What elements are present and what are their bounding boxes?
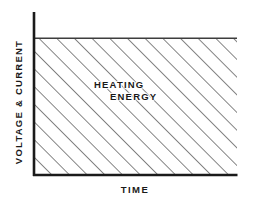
heating-energy-line-2: ENERGY	[83, 91, 175, 103]
x-axis-label: TIME	[33, 184, 237, 195]
chart-plot-area	[0, 0, 258, 204]
heating-energy-annotation: HEATING ENERGY	[83, 79, 175, 102]
heating-energy-chart: VOLTAGE & CURRENT HEATING ENERGY TIME	[0, 0, 258, 204]
heating-energy-line-1: HEATING	[83, 79, 175, 91]
x-axis-label-text: TIME	[121, 184, 149, 195]
heating-energy-area	[34, 38, 238, 175]
